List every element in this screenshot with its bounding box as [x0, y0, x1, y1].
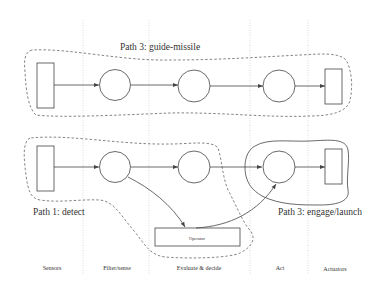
operator-label: Operator [189, 236, 205, 241]
top-actuator-box [325, 69, 342, 104]
path3-guide-label: Path 3: guide-missile [120, 42, 200, 52]
top-act-node [263, 70, 295, 102]
bottom-sensor-box [37, 146, 54, 191]
path3-guide-boundary [25, 50, 352, 117]
top-sensor-box [37, 63, 54, 108]
diagram-canvas: Path 3: guide-missile Path 1: detect Pat… [0, 0, 378, 292]
column-label-sensors: Sensors [43, 265, 62, 271]
bottom-filter-node [100, 152, 131, 183]
diagram-svg: Path 3: guide-missile Path 1: detect Pat… [0, 0, 378, 292]
path3-engage-label: Path 3: engage/launch [278, 207, 362, 217]
path1-detect-boundary [24, 137, 253, 258]
path1-detect-label: Path 1: detect [33, 207, 85, 217]
top-filter-node [100, 70, 131, 101]
top-evaluate-node [178, 70, 210, 102]
bottom-act-node [263, 151, 295, 183]
column-label-act: Act [276, 265, 285, 271]
bottom-evaluate-node [178, 151, 210, 183]
path3-engage-boundary [245, 140, 349, 205]
filter-to-operator-arrow [128, 177, 185, 227]
column-label-evaluate-decide: Evaluate & decide [177, 265, 222, 271]
column-label-actuators: Actuators [323, 266, 347, 272]
bottom-actuator-box [325, 149, 342, 184]
column-label-filter-sense: Filter/sense [103, 265, 131, 271]
